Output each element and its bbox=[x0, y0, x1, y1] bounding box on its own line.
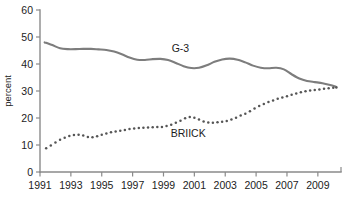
series-point bbox=[267, 101, 270, 104]
series-point bbox=[63, 136, 66, 139]
series-point bbox=[253, 107, 256, 110]
series-point bbox=[128, 128, 131, 131]
series-point bbox=[124, 129, 127, 132]
x-tick-label: 1995 bbox=[90, 179, 114, 191]
series-point bbox=[156, 126, 159, 129]
series-point bbox=[54, 141, 57, 144]
series-point bbox=[226, 120, 229, 123]
x-tick-label: 1991 bbox=[28, 179, 52, 191]
series-point bbox=[147, 126, 150, 129]
series-point bbox=[151, 126, 154, 128]
series-point bbox=[230, 118, 233, 121]
y-tick-label: 40 bbox=[21, 58, 33, 70]
series-point bbox=[212, 122, 215, 125]
series-point bbox=[179, 119, 182, 122]
x-tick-label: 2005 bbox=[244, 179, 268, 191]
series-point bbox=[91, 136, 94, 139]
series-point bbox=[170, 124, 173, 127]
series-point bbox=[332, 87, 335, 90]
x-tick-label: 1997 bbox=[121, 179, 145, 191]
series-point bbox=[235, 116, 238, 119]
series-point bbox=[221, 121, 224, 124]
series-point bbox=[276, 98, 279, 101]
y-tick-label: 0 bbox=[27, 166, 33, 178]
series-point bbox=[68, 135, 71, 138]
series-briick bbox=[45, 86, 338, 149]
series-point bbox=[188, 116, 191, 119]
series-point bbox=[165, 125, 168, 128]
x-tick-label: 2007 bbox=[275, 179, 299, 191]
y-tick-label: 60 bbox=[21, 4, 33, 16]
series-point bbox=[175, 122, 178, 125]
series-point bbox=[105, 132, 108, 135]
series-point bbox=[198, 118, 201, 121]
chart-canvas: 0102030405060 19911993199519971999200120… bbox=[0, 0, 350, 200]
series-point bbox=[318, 88, 321, 91]
series-point bbox=[207, 121, 210, 124]
y-tick-label: 50 bbox=[21, 31, 33, 43]
series-point bbox=[59, 139, 62, 142]
series-point bbox=[193, 116, 196, 119]
series-label-g-3: G-3 bbox=[172, 42, 190, 54]
series-point bbox=[202, 120, 205, 123]
series-g-3 bbox=[45, 42, 337, 87]
x-tick-label: 2003 bbox=[214, 179, 238, 191]
x-tick-label: 2001 bbox=[183, 179, 207, 191]
series-point bbox=[249, 110, 252, 113]
x-tick-label: 2009 bbox=[306, 179, 330, 191]
series-point bbox=[110, 131, 113, 134]
series-point bbox=[327, 87, 330, 90]
series-point bbox=[286, 95, 289, 98]
series-point bbox=[314, 89, 317, 92]
series-point bbox=[304, 90, 307, 93]
x-tick-label: 1999 bbox=[152, 179, 176, 191]
series-annotations: G-3BRIICK bbox=[171, 42, 206, 140]
series-point bbox=[161, 126, 164, 129]
y-tick-label: 10 bbox=[21, 139, 33, 151]
series-point bbox=[119, 129, 122, 132]
x-axis-ticks: 1991199319951997199920012003200520072009 bbox=[28, 167, 341, 191]
series-point bbox=[100, 133, 103, 136]
series-point bbox=[133, 127, 136, 130]
series-path bbox=[45, 42, 337, 87]
x-tick-label: 1993 bbox=[59, 179, 83, 191]
series-point bbox=[142, 126, 145, 129]
series-point bbox=[114, 130, 117, 133]
series-point bbox=[323, 88, 326, 91]
y-tick-label: 20 bbox=[21, 112, 33, 124]
series-point bbox=[184, 117, 187, 120]
series-point bbox=[45, 147, 48, 150]
x-axis-group: 1991199319951997199920012003200520072009 bbox=[28, 167, 341, 191]
series-point bbox=[138, 127, 141, 129]
series-point bbox=[263, 103, 266, 106]
series-point bbox=[295, 92, 298, 95]
series-point bbox=[300, 91, 303, 94]
series-point bbox=[290, 94, 293, 97]
series-point bbox=[216, 121, 219, 124]
series-point bbox=[73, 134, 76, 137]
series-label-briick: BRIICK bbox=[171, 127, 206, 139]
series-point bbox=[244, 112, 247, 115]
series-point bbox=[309, 89, 312, 92]
series-point bbox=[239, 114, 242, 117]
series-point bbox=[87, 136, 90, 139]
series-point bbox=[50, 144, 53, 147]
series-point bbox=[77, 133, 80, 136]
series-point bbox=[82, 134, 85, 137]
chart-container: 0102030405060 19911993199519971999200120… bbox=[0, 0, 350, 200]
y-tick-label: 30 bbox=[21, 85, 33, 97]
y-axis-title: percent bbox=[2, 75, 13, 107]
series-point bbox=[335, 86, 338, 89]
series-point bbox=[96, 135, 99, 138]
y-axis-ticks: 0102030405060 bbox=[21, 4, 40, 178]
series-point bbox=[272, 99, 275, 102]
series-point bbox=[258, 105, 261, 108]
y-axis-group: 0102030405060 bbox=[21, 4, 40, 178]
series-point bbox=[281, 96, 284, 99]
